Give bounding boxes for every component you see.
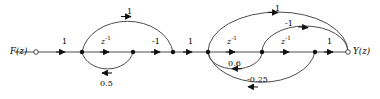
branch-gain-b3: -1 (152, 38, 160, 46)
feed-arcs (82, 12, 348, 82)
arc-gain-f2: 0.5 (100, 80, 113, 88)
branch-gain-b6-exponent: -1 (285, 35, 291, 41)
arc-gain-f1: 1 (127, 8, 132, 16)
node-n4 (206, 50, 210, 54)
arc-gain-f5: 0.6 (228, 60, 241, 68)
branch-gain-b2: z-1 (101, 38, 111, 46)
signal-flow-graph-figure: F(z) Y(z) 1 z-1 -1 1 z-1 z-1 1 1 0.5 1 -… (0, 0, 380, 99)
node-n5 (260, 50, 264, 54)
branch-gain-b6: z-1 (281, 38, 291, 46)
output-label: Y(z) (353, 47, 370, 56)
input-label: F(z) (10, 47, 27, 56)
input-terminal-icon (34, 50, 39, 55)
branch-gain-b5: z-1 (227, 38, 237, 46)
output-terminal-icon (346, 50, 351, 55)
node-n1 (80, 50, 84, 54)
arc-f4-gain-neg1 (262, 26, 348, 52)
branch-gain-b1: 1 (62, 38, 67, 46)
arc-arrowheads (102, 12, 308, 87)
arc-gain-f6: -0.25 (247, 76, 268, 84)
branch-gain-b5-exponent: -1 (231, 35, 237, 41)
node-n6 (313, 50, 317, 54)
node-n2 (131, 50, 135, 54)
arc-gain-f4: -1 (285, 20, 293, 28)
node-n3 (171, 50, 175, 54)
arrowhead-f4 (298, 27, 308, 28)
arc-f2-gain-0.5 (82, 52, 133, 69)
branch-gain-b2-exponent: -1 (105, 35, 111, 41)
branch-gain-b4: 1 (188, 38, 193, 46)
graph-canvas (0, 0, 380, 99)
branch-gain-b7: 1 (327, 38, 332, 46)
arc-gain-f3: 1 (275, 5, 280, 13)
